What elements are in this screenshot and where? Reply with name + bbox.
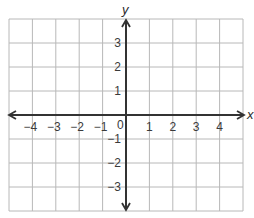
x-tick-label: −1 — [94, 120, 108, 134]
x-tick-label: 4 — [216, 120, 223, 134]
x-tick-label: 3 — [193, 120, 200, 134]
x-tick-label: −3 — [47, 120, 61, 134]
x-tick-label: −2 — [70, 120, 84, 134]
y-tick-label: 3 — [114, 36, 121, 50]
x-tick-label: −4 — [24, 120, 38, 134]
y-axis-label: y — [121, 2, 130, 17]
y-tick-label: −1 — [107, 132, 121, 146]
axes — [9, 20, 244, 210]
coordinate-plane: y x 0 −4−3−2−11234 321−1−2−3 — [0, 0, 254, 218]
x-axis-label: x — [246, 107, 254, 122]
y-tick-label: −3 — [107, 180, 121, 194]
origin-label: 0 — [117, 118, 124, 132]
x-tick-label: 2 — [169, 120, 176, 134]
y-tick-label: 1 — [114, 84, 121, 98]
x-tick-label: 1 — [146, 120, 153, 134]
y-tick-label: −2 — [107, 156, 121, 170]
y-tick-label: 2 — [114, 60, 121, 74]
